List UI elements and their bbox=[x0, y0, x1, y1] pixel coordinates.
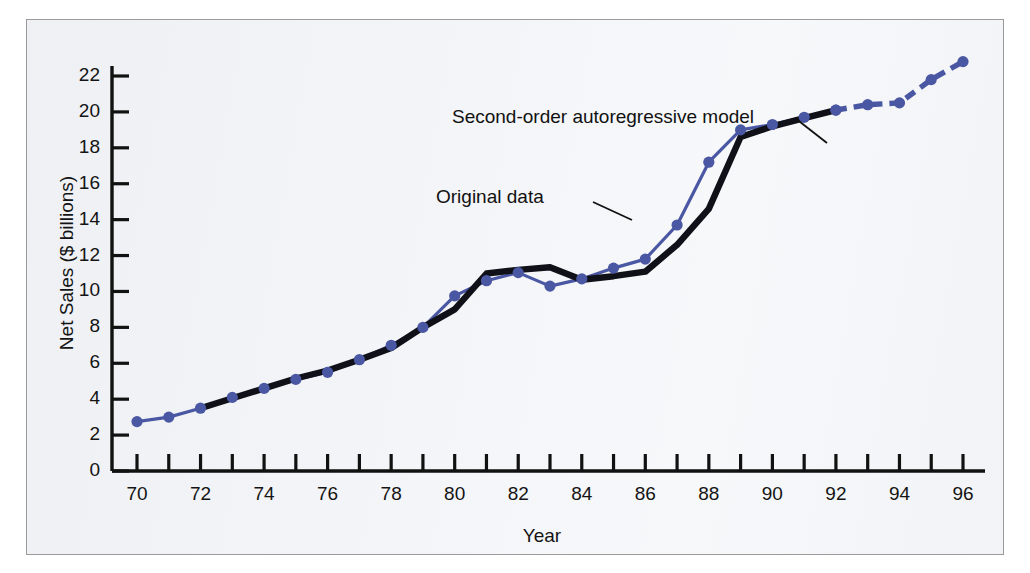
x-tick-label: 80 bbox=[433, 483, 477, 505]
y-tick-label: 0 bbox=[60, 459, 100, 481]
y-tick-label: 22 bbox=[60, 64, 100, 86]
annotation-model-label: Second-order autoregressive model bbox=[452, 106, 754, 128]
data-point-original bbox=[449, 290, 460, 301]
leader-line-model bbox=[795, 118, 827, 143]
data-point-original bbox=[640, 254, 651, 265]
y-tick-label: 2 bbox=[60, 423, 100, 445]
y-tick-label: 12 bbox=[60, 244, 100, 266]
data-point-original bbox=[544, 281, 555, 292]
y-tick-label: 14 bbox=[60, 208, 100, 230]
data-point-original bbox=[672, 219, 683, 230]
data-point-original bbox=[703, 157, 714, 168]
data-point-original bbox=[354, 354, 365, 365]
data-point-original bbox=[322, 367, 333, 378]
annotation-original-label: Original data bbox=[436, 186, 544, 208]
chart-panel: Net Sales ($ billions) Year Second-order… bbox=[26, 19, 1004, 555]
x-tick-label: 86 bbox=[623, 483, 667, 505]
x-tick-label: 76 bbox=[306, 483, 350, 505]
x-tick-label: 94 bbox=[877, 483, 921, 505]
y-tick-label: 6 bbox=[60, 351, 100, 373]
data-point-original bbox=[259, 383, 270, 394]
chart-figure: Net Sales ($ billions) Year Second-order… bbox=[0, 0, 1030, 573]
plot-area bbox=[27, 20, 1003, 554]
data-point-original bbox=[608, 263, 619, 274]
leader-line-original bbox=[593, 202, 632, 220]
x-axis-title: Year bbox=[27, 525, 1030, 547]
data-point-original bbox=[417, 322, 428, 333]
y-tick-label: 18 bbox=[60, 136, 100, 158]
x-tick-label: 78 bbox=[369, 483, 413, 505]
x-tick-label: 70 bbox=[115, 483, 159, 505]
data-point-forecast bbox=[957, 56, 968, 67]
x-tick-label: 72 bbox=[179, 483, 223, 505]
data-point-original bbox=[290, 374, 301, 385]
x-tick-label: 84 bbox=[560, 483, 604, 505]
data-point-original bbox=[513, 267, 524, 278]
x-tick-label: 92 bbox=[814, 483, 858, 505]
x-tick-label: 82 bbox=[496, 483, 540, 505]
data-point-original bbox=[131, 416, 142, 427]
data-point-original bbox=[227, 392, 238, 403]
y-tick-label: 10 bbox=[60, 279, 100, 301]
data-point-original bbox=[767, 119, 778, 130]
data-point-original bbox=[576, 273, 587, 284]
data-point-forecast bbox=[862, 99, 873, 110]
data-point-original bbox=[481, 275, 492, 286]
y-tick-label: 20 bbox=[60, 100, 100, 122]
y-tick-label: 16 bbox=[60, 172, 100, 194]
x-tick-label: 88 bbox=[687, 483, 731, 505]
x-tick-label: 90 bbox=[750, 483, 794, 505]
data-point-original bbox=[386, 340, 397, 351]
x-tick-label: 96 bbox=[941, 483, 985, 505]
series-model-line bbox=[201, 110, 836, 408]
x-tick-label: 74 bbox=[242, 483, 286, 505]
data-point-forecast bbox=[894, 97, 905, 108]
y-tick-label: 4 bbox=[60, 387, 100, 409]
data-point-forecast bbox=[830, 105, 841, 116]
data-point-original bbox=[195, 403, 206, 414]
y-tick-label: 8 bbox=[60, 315, 100, 337]
data-point-original bbox=[163, 412, 174, 423]
data-point-forecast bbox=[926, 74, 937, 85]
